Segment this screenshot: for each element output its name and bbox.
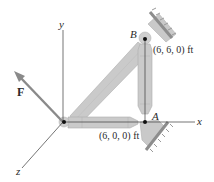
point-origin xyxy=(62,120,66,124)
member-oa xyxy=(68,117,138,128)
point-a-coord: (6, 0, 0) ft xyxy=(99,131,139,141)
point-b-coord: (6, 6, 0) ft xyxy=(153,45,193,55)
z-axis-label: z xyxy=(16,166,20,177)
support-a xyxy=(140,120,173,152)
point-b xyxy=(143,37,147,41)
force-label: F xyxy=(17,86,24,98)
z-axis xyxy=(22,122,63,168)
x-axis-label: x xyxy=(197,116,202,127)
point-a xyxy=(143,120,147,124)
point-b-label: B xyxy=(130,29,137,40)
point-a-label: A xyxy=(152,111,159,122)
truss-diagram xyxy=(0,0,214,182)
y-axis-label: y xyxy=(59,19,64,30)
